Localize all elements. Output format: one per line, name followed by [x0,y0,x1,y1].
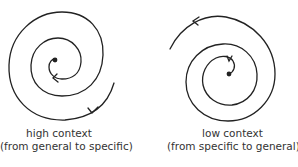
high-context-description: (from general to specific) [0,140,118,153]
high-context-label: high context [0,127,118,140]
low-context-description: (from specific to general) [167,140,298,153]
low-context-caption: low context (from specific to general) [167,127,298,153]
low-context-spiral [170,16,275,121]
inner-arrowhead-icon [227,56,232,61]
high-context-caption: high context (from general to specific) [0,127,118,153]
low-context-center-dot [227,72,232,77]
high-context-spiral-path [9,12,114,120]
high-context-center-dot [53,58,58,63]
high-context-spiral [9,12,114,120]
low-context-spiral-path [170,16,275,121]
low-context-label: low context [167,127,298,140]
